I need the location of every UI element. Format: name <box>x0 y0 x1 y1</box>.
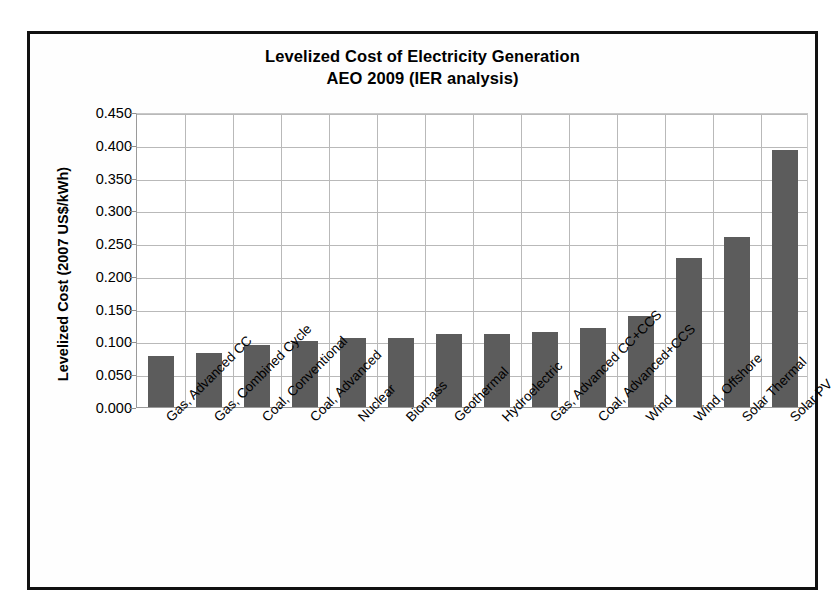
vertical-gridline <box>521 114 522 407</box>
y-axis-tick-label: 0.300 <box>62 203 132 219</box>
bar <box>148 356 174 407</box>
y-axis-tick-label: 0.200 <box>62 269 132 285</box>
y-axis-tick-mark <box>129 375 136 376</box>
vertical-gridline <box>185 114 186 407</box>
y-axis-tick-label: 0.150 <box>62 302 132 318</box>
horizontal-gridline <box>137 376 807 377</box>
y-axis-tick-label: 0.000 <box>62 400 132 416</box>
horizontal-gridline <box>137 212 807 213</box>
y-axis-tick-mark <box>129 342 136 343</box>
y-axis-tick-mark <box>129 408 136 409</box>
vertical-gridline <box>569 114 570 407</box>
y-axis-tick-mark <box>129 277 136 278</box>
horizontal-gridline <box>137 114 807 115</box>
plot-area <box>136 113 808 408</box>
y-axis-tick-mark <box>129 179 136 180</box>
vertical-gridline <box>713 114 714 407</box>
y-axis-tick-label: 0.400 <box>62 138 132 154</box>
y-axis-tick-label: 0.450 <box>62 105 132 121</box>
y-axis-tick-mark <box>129 146 136 147</box>
chart-title: Levelized Cost of Electricity Generation… <box>30 46 815 90</box>
x-axis-tick-labels: Gas, Advanced CCGas, Combined CycleCoal,… <box>136 408 808 588</box>
y-axis-tick-mark <box>129 310 136 311</box>
y-axis-tick-label: 0.100 <box>62 334 132 350</box>
horizontal-gridline <box>137 147 807 148</box>
vertical-gridline <box>425 114 426 407</box>
y-axis-tick-mark <box>129 244 136 245</box>
y-axis-tick-label: 0.350 <box>62 171 132 187</box>
vertical-gridline <box>473 114 474 407</box>
chart-title-line-1: Levelized Cost of Electricity Generation <box>30 46 815 68</box>
horizontal-gridline <box>137 278 807 279</box>
chart-canvas: Levelized Cost of Electricity Generation… <box>30 34 815 587</box>
chart-title-line-2: AEO 2009 (IER analysis) <box>30 68 815 90</box>
horizontal-gridline <box>137 311 807 312</box>
y-axis-tick-mark <box>129 113 136 114</box>
horizontal-gridline <box>137 245 807 246</box>
y-axis-tick-label: 0.050 <box>62 367 132 383</box>
y-axis-tick-mark <box>129 211 136 212</box>
y-axis-tick-label: 0.250 <box>62 236 132 252</box>
chart-figure: Levelized Cost of Electricity Generation… <box>27 31 818 590</box>
horizontal-gridline <box>137 180 807 181</box>
